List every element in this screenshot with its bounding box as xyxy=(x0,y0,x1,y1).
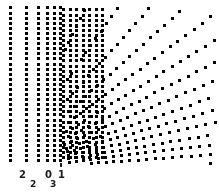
axis-tick-label-lower-1: 3 xyxy=(50,180,56,189)
axis-tick-label-lower-0: 2 xyxy=(30,180,36,189)
axis-tick-label-upper-2: 1 xyxy=(58,170,65,180)
figure-root: 201 23 xyxy=(0,0,219,195)
radial-dot-scatter-plot xyxy=(0,0,219,195)
axis-tick-label-upper-0: 2 xyxy=(19,170,26,180)
axis-tick-mark xyxy=(60,163,62,167)
